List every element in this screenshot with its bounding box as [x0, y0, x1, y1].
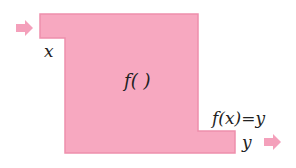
- output-arrow-icon: [264, 134, 281, 150]
- output-expression: f(x)=y: [212, 108, 265, 128]
- function-machine-diagram: x f( ) f(x)=y y: [0, 0, 296, 168]
- input-label: x: [44, 41, 54, 61]
- output-label: y: [242, 132, 252, 152]
- input-arrow-icon: [16, 20, 33, 36]
- function-label: f( ): [124, 70, 150, 91]
